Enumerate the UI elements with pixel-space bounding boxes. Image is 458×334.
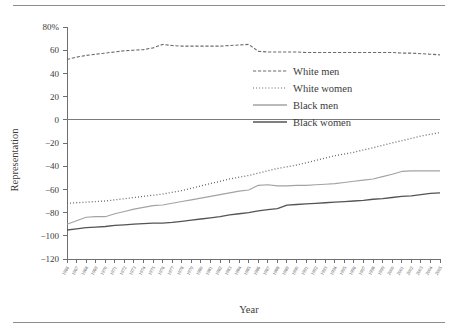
x-axis: 1966196719681969197019711972197319741975…	[61, 259, 443, 276]
x-tick-label: 1980	[195, 265, 204, 276]
x-tick-label: 1981	[205, 265, 214, 276]
x-tick-label: 1986	[252, 265, 261, 276]
legend-label: Black men	[293, 100, 339, 111]
series-line	[67, 44, 440, 59]
x-tick-label: 1966	[61, 265, 70, 276]
x-tick-label: 1998	[367, 265, 376, 276]
x-tick-label: 1974	[138, 265, 147, 276]
x-tick-label: 1969	[90, 265, 99, 276]
x-tick-label: 2000	[386, 265, 395, 276]
series-line	[67, 133, 440, 204]
x-tick-label: 1971	[109, 265, 118, 276]
x-tick-label: 2004	[425, 265, 434, 276]
x-tick-label: 2002	[405, 265, 414, 276]
x-tick-label: 1983	[224, 265, 233, 276]
y-tick-label: −120	[40, 254, 59, 264]
legend-label: White women	[293, 83, 353, 94]
y-tick-label: 40	[50, 69, 60, 79]
legend-label: White men	[293, 66, 340, 77]
y-tick-label: −100	[40, 231, 59, 241]
x-axis-title: Year	[239, 304, 259, 315]
x-tick-label: 2001	[396, 265, 405, 276]
x-tick-label: 1976	[157, 265, 166, 276]
y-tick-label: −40	[45, 161, 60, 171]
x-tick-label: 1978	[176, 265, 185, 276]
x-tick-label: 1987	[262, 265, 271, 276]
y-axis-title: Representation	[9, 128, 20, 192]
x-tick-label: 1992	[310, 265, 319, 276]
x-tick-label: 1994	[329, 265, 338, 276]
x-tick-label: 1997	[358, 265, 367, 276]
x-tick-label: 1985	[243, 265, 252, 276]
bottom-divider-rule	[13, 322, 445, 323]
figure-container: 80%6040200−20−40−60−80−100−120 196619671…	[0, 0, 458, 334]
series-line	[67, 171, 440, 224]
x-tick-label: 1967	[71, 265, 80, 276]
y-tick-label: −80	[45, 208, 60, 218]
data-series-group	[67, 44, 440, 230]
x-tick-label: 1995	[339, 265, 348, 276]
x-tick-label: 1982	[214, 265, 223, 276]
x-tick-label: 1973	[128, 265, 137, 276]
legend-label: Black women	[293, 117, 352, 128]
x-tick-label: 1991	[300, 265, 309, 276]
x-tick-label: 1970	[99, 265, 108, 276]
x-tick-label: 1977	[166, 265, 175, 276]
x-tick-label: 1989	[281, 265, 290, 276]
x-tick-label: 1993	[319, 265, 328, 276]
x-tick-label: 1972	[119, 265, 128, 276]
x-tick-label: 2005	[434, 265, 443, 276]
y-tick-label: −60	[45, 185, 60, 195]
x-tick-label: 1999	[377, 265, 386, 276]
x-tick-label: 1988	[272, 265, 281, 276]
x-tick-label: 1996	[348, 265, 357, 276]
x-tick-label: 1975	[147, 265, 156, 276]
x-tick-label: 2003	[415, 265, 424, 276]
chart-legend: White menWhite womenBlack menBlack women	[253, 66, 353, 128]
y-tick-label: 20	[50, 92, 60, 102]
y-tick-label: 0	[55, 115, 60, 125]
top-divider-rule	[13, 5, 445, 6]
y-axis: 80%6040200−20−40−60−80−100−120	[40, 22, 67, 264]
y-tick-label: 80%	[43, 22, 60, 32]
y-tick-label: 60	[50, 45, 60, 55]
x-tick-label: 1968	[80, 265, 89, 276]
y-tick-label: −20	[45, 138, 60, 148]
x-tick-label: 1984	[233, 265, 242, 276]
x-tick-label: 1990	[291, 265, 300, 276]
line-chart: 80%6040200−20−40−60−80−100−120 196619671…	[0, 0, 458, 334]
x-tick-label: 1979	[185, 265, 194, 276]
